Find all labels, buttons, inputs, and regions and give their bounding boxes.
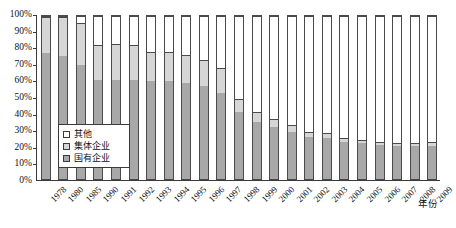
x-axis-tick-label: 1998	[242, 185, 261, 204]
x-axis-tick-label: 1993	[154, 185, 173, 204]
stacked-bar	[216, 15, 226, 180]
bar-segment-state-owned	[253, 122, 261, 179]
bar-segment-collective	[130, 45, 138, 79]
bar-segment-other	[270, 16, 278, 119]
legend-item-other: 其他	[63, 128, 125, 140]
stacked-bar	[357, 15, 367, 180]
bar-group	[41, 15, 51, 180]
x-axis-tick-label: 2003	[330, 185, 349, 204]
bar-group	[252, 15, 262, 180]
bar-segment-state-owned	[217, 93, 225, 179]
bar-group	[339, 15, 349, 180]
bar-segment-collective	[270, 119, 278, 127]
legend-swatch-state-icon	[63, 155, 70, 162]
x-axis-tick-label: 1985	[84, 185, 103, 204]
stacked-bar	[164, 15, 174, 180]
bar-segment-other	[130, 16, 138, 45]
y-axis-tick-label: 50%	[0, 93, 32, 102]
x-axis-tick-label: 1992	[137, 185, 156, 204]
chart-container: 0%10%20%30%40%50%60%70%80%90%100% 其他 集体企…	[0, 0, 456, 228]
stacked-bar	[252, 15, 262, 180]
bar-segment-state-owned	[200, 86, 208, 179]
x-axis-tick-label: 2002	[313, 185, 332, 204]
bar-segment-state-owned	[305, 137, 313, 179]
x-axis-tick-label: 1996	[207, 185, 226, 204]
bar-segment-collective	[112, 44, 120, 80]
bar-segment-collective	[94, 45, 102, 79]
bar-group	[304, 15, 314, 180]
bar-segment-other	[288, 16, 296, 125]
y-axis-tick-label: 90%	[0, 27, 32, 36]
x-axis-tick-label: 1999	[260, 185, 279, 204]
bar-segment-other	[305, 16, 313, 132]
x-axis-tick-label: 1994	[172, 185, 191, 204]
bar-segment-collective	[77, 23, 85, 65]
bar-segment-state-owned	[270, 127, 278, 179]
x-axis-tick-label: 2009	[435, 185, 454, 204]
stacked-bar	[41, 15, 51, 180]
stacked-bar	[234, 15, 244, 180]
stacked-bar	[146, 15, 156, 180]
bar-segment-collective	[165, 52, 173, 81]
bar-group	[199, 15, 209, 180]
bar-segment-state-owned	[411, 146, 419, 179]
stacked-bar	[269, 15, 279, 180]
legend-label-other: 其他	[74, 129, 92, 139]
bar-segment-collective	[235, 99, 243, 112]
bar-group	[181, 15, 191, 180]
stacked-bar	[392, 15, 402, 180]
stacked-bar	[427, 15, 437, 180]
x-axis-tick-label: 1995	[190, 185, 209, 204]
bar-segment-other	[358, 16, 366, 140]
bar-segment-state-owned	[147, 81, 155, 179]
stacked-bar	[199, 15, 209, 180]
bar-group	[357, 15, 367, 180]
bar-segment-state-owned	[42, 53, 50, 179]
x-axis-tick-label: 1997	[225, 185, 244, 204]
bar-group	[322, 15, 332, 180]
bar-segment-other	[200, 16, 208, 60]
bar-segment-state-owned	[235, 112, 243, 179]
x-axis-tick-label: 1978	[49, 185, 68, 204]
bar-segment-collective	[59, 17, 67, 56]
bar-segment-other	[165, 16, 173, 52]
x-axis-tick-label: 2001	[295, 185, 314, 204]
bar-segment-collective	[182, 55, 190, 83]
bar-segment-other	[340, 16, 348, 138]
bar-segment-other	[182, 16, 190, 55]
y-axis-tick-label: 100%	[0, 10, 32, 19]
bar-group	[410, 15, 420, 180]
bar-group	[146, 15, 156, 180]
bar-segment-collective	[42, 17, 50, 53]
x-axis-tick-label: 1990	[102, 185, 121, 204]
bar-segment-state-owned	[358, 143, 366, 179]
x-axis-tick-label: 1991	[119, 185, 138, 204]
y-axis-tick-label: 60%	[0, 76, 32, 85]
y-axis-tick-label: 0%	[0, 176, 32, 185]
stacked-bar	[287, 15, 297, 180]
bar-segment-collective	[253, 112, 261, 122]
bar-group	[392, 15, 402, 180]
bar-segment-state-owned	[393, 146, 401, 179]
x-axis-tick-label: 2005	[365, 185, 384, 204]
bar-group	[129, 15, 139, 180]
stacked-bar	[129, 15, 139, 180]
bar-segment-other	[323, 16, 331, 133]
bar-segment-collective	[217, 68, 225, 92]
bar-group	[216, 15, 226, 180]
bar-segment-other	[147, 16, 155, 52]
y-axis-tick-label: 20%	[0, 143, 32, 152]
x-axis-tick-label: 2007	[400, 185, 419, 204]
bar-segment-state-owned	[428, 146, 436, 179]
bar-segment-other	[253, 16, 261, 112]
legend-swatch-other-icon	[63, 131, 70, 138]
bar-segment-other	[376, 16, 384, 142]
y-axis-tick-label: 30%	[0, 126, 32, 135]
stacked-bar	[375, 15, 385, 180]
bar-segment-collective	[200, 60, 208, 86]
bar-segment-state-owned	[165, 81, 173, 179]
bar-group	[164, 15, 174, 180]
y-axis-tick-label: 70%	[0, 60, 32, 69]
legend-label-state: 国有企业	[74, 153, 110, 163]
bar-segment-other	[428, 16, 436, 142]
